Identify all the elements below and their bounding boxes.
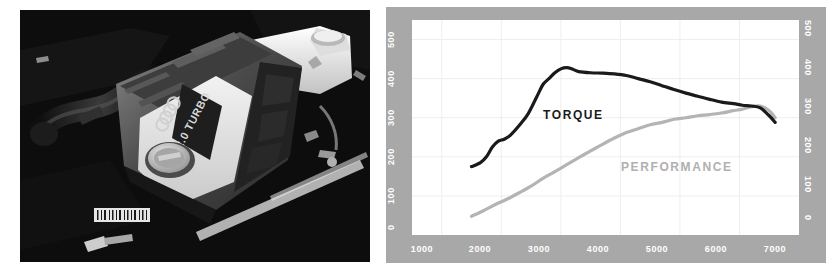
- x-axis-tick-3000: 3000: [517, 245, 561, 254]
- x-axis-tick-5000: 5000: [635, 245, 679, 254]
- x-axis-tick-2000: 2000: [458, 245, 502, 254]
- x-axis-tick-4000: 4000: [576, 245, 620, 254]
- y-axis-left-tick-400: 400: [387, 70, 396, 87]
- y-axis-right-tick-400: 400: [803, 59, 812, 76]
- x-axis-tick-6000: 6000: [694, 245, 738, 254]
- dyno-chart-page: 2.0 TURBO: [0, 0, 835, 276]
- engine-bay-photograph: 2.0 TURBO: [20, 10, 370, 262]
- y-axis-left-tick-0: 0: [387, 224, 396, 230]
- y-axis-right-tick-300: 300: [803, 98, 812, 115]
- dyno-chart-panel: 0 100 200 300 400 500 0 100 200 300 400 …: [378, 0, 835, 276]
- y-axis-left-tick-500: 500: [387, 31, 396, 48]
- y-axis-left-tick-300: 300: [387, 109, 396, 126]
- dyno-curves: [412, 20, 799, 235]
- y-axis-right-tick-200: 200: [803, 137, 812, 154]
- y-axis-left-tick-100: 100: [387, 187, 396, 204]
- x-axis-tick-1000: 1000: [400, 245, 444, 254]
- gridlines: [412, 20, 799, 235]
- x-axis-tick-7000: 7000: [753, 245, 797, 254]
- torque-series-label: TORQUE: [543, 108, 604, 122]
- torque-curve: [472, 68, 776, 167]
- y-axis-right-tick-100: 100: [803, 176, 812, 193]
- chart-frame: 0 100 200 300 400 500 0 100 200 300 400 …: [386, 7, 826, 263]
- plot-area: TORQUE PERFORMANCE: [412, 20, 799, 235]
- photo-panel: 2.0 TURBO: [0, 0, 378, 276]
- y-axis-right-tick-0: 0: [803, 215, 812, 221]
- y-axis-left-tick-200: 200: [387, 148, 396, 165]
- y-axis-right-tick-500: 500: [803, 20, 812, 37]
- performance-series-label: PERFORMANCE: [621, 160, 733, 174]
